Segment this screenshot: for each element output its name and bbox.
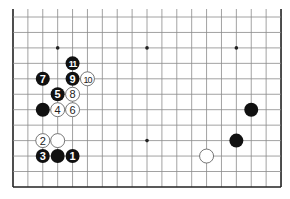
stone-circle (200, 149, 214, 163)
stone-circle (36, 103, 50, 117)
star-point (56, 46, 60, 50)
black-stone (36, 103, 50, 117)
black-stone-5: 5 (51, 87, 65, 101)
star-point (145, 46, 149, 50)
star-point (145, 139, 149, 143)
white-stone (51, 134, 65, 148)
white-stone (200, 149, 214, 163)
move-number: 6 (69, 104, 75, 116)
stone-circle (51, 149, 65, 163)
black-stone-9: 9 (66, 72, 80, 86)
move-number: 5 (55, 88, 61, 100)
black-stone (51, 149, 65, 163)
star-point (235, 46, 239, 50)
move-number: 10 (83, 75, 92, 85)
stone-circle (51, 134, 65, 148)
move-number: 3 (40, 150, 46, 162)
black-stone (229, 134, 243, 148)
stone-circle (229, 134, 243, 148)
black-stone (244, 103, 258, 117)
white-stone-2: 2 (36, 134, 50, 148)
move-number: 11 (69, 59, 78, 69)
move-number: 1 (69, 150, 75, 162)
white-stone-8: 8 (66, 87, 80, 101)
white-stone-6: 6 (66, 103, 80, 117)
black-stone-3: 3 (36, 149, 50, 163)
black-stone-11: 11 (66, 56, 80, 70)
go-board: 1234567891011 (0, 0, 290, 199)
black-stone-1: 1 (66, 149, 80, 163)
move-number: 4 (55, 104, 61, 116)
move-number: 8 (69, 88, 75, 100)
white-stone-10: 10 (80, 72, 94, 86)
stone-circle (244, 103, 258, 117)
move-number: 2 (40, 135, 46, 147)
black-stone-7: 7 (36, 72, 50, 86)
move-number: 7 (40, 73, 46, 85)
move-number: 9 (69, 73, 75, 85)
white-stone-4: 4 (51, 103, 65, 117)
